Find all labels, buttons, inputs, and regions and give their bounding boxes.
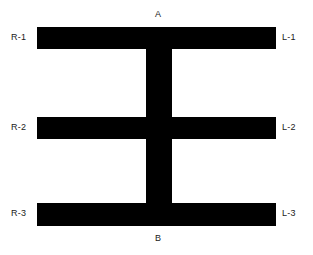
figure-container: A R-1 R-2 R-3 L-1 L-2 L-3 B [0, 0, 313, 255]
label-top-a: A [155, 9, 161, 20]
label-left-r3: R-3 [11, 208, 26, 219]
label-left-r2: R-2 [11, 122, 26, 133]
label-left-r1: R-1 [11, 32, 26, 43]
label-bottom-b: B [155, 233, 161, 244]
label-right-l3: L-3 [282, 208, 296, 219]
label-right-l1: L-1 [282, 32, 296, 43]
label-right-l2: L-2 [282, 122, 296, 133]
vertical-spine-bar [146, 27, 172, 226]
comb-structure-diagram [0, 0, 313, 255]
